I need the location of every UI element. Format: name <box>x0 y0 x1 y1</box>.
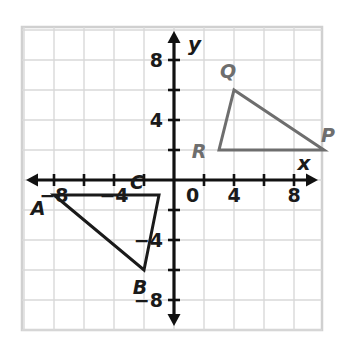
vertex-label-Q: Q <box>220 60 236 82</box>
vertex-label-R: R <box>192 140 207 162</box>
y-tick-label-8: 8 <box>150 49 163 71</box>
x-tick-label-8: 8 <box>287 184 300 206</box>
origin-label: 0 <box>186 184 199 206</box>
vertex-label-P: P <box>321 124 335 146</box>
vertex-label-A: A <box>29 197 46 219</box>
vertex-label-C: C <box>130 171 144 193</box>
x-tick-label-4: 4 <box>227 184 240 206</box>
graph-figure: −8−44884−4−80 ABCPQR yx <box>0 0 346 357</box>
y-tick-label-4: 4 <box>150 109 163 131</box>
y-axis-name: y <box>188 32 202 56</box>
vertex-label-B: B <box>133 276 147 298</box>
coordinate-plane-svg: −8−44884−4−80 ABCPQR yx <box>0 0 346 357</box>
x-axis-name: x <box>297 151 312 175</box>
